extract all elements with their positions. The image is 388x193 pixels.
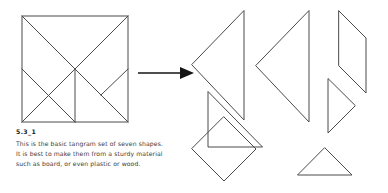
piece-small-triangle-2 xyxy=(298,148,352,175)
piece-medium-triangle xyxy=(328,79,355,133)
piece-large-triangle-2 xyxy=(256,11,309,122)
assembled-tangram-square xyxy=(0,0,150,130)
tangram-cut-square-piece xyxy=(75,69,101,95)
tangram-pieces-svg xyxy=(190,2,388,193)
arrow-icon xyxy=(136,58,198,88)
tangram-pieces-group xyxy=(190,2,388,193)
caption-body: This is the basic tangram set of seven s… xyxy=(16,139,164,169)
caption-title: 5.3_1 xyxy=(16,129,164,136)
caption: 5.3_1 This is the basic tangram set of s… xyxy=(16,129,164,168)
piece-square xyxy=(192,117,256,181)
piece-parallelogram xyxy=(339,11,366,93)
piece-small-triangle-1 xyxy=(208,92,262,147)
assembled-tangram-svg xyxy=(0,0,150,130)
tangram-figure: 5.3_1 This is the basic tangram set of s… xyxy=(0,0,388,193)
tangram-cut-parallelogram xyxy=(101,69,128,95)
transformation-arrow xyxy=(136,58,198,88)
piece-large-triangle-1 xyxy=(192,11,244,120)
